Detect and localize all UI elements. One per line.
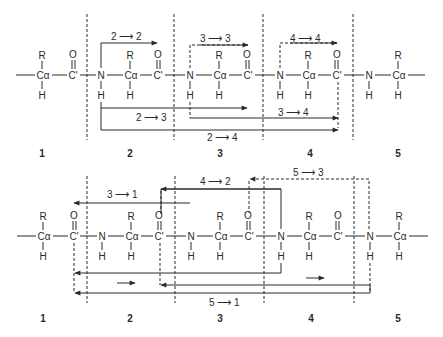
atom-n: N xyxy=(277,231,284,242)
atom-r: R xyxy=(394,50,401,61)
atom-calpha: Cα xyxy=(303,231,316,242)
atom-n: N xyxy=(186,70,193,81)
atom-r: R xyxy=(395,211,402,222)
arrow-label-5-1: 5 ⟶ 1 xyxy=(209,297,240,308)
atom-h: H xyxy=(365,90,372,101)
atom-o: O xyxy=(244,210,252,221)
atom-carbonyl-c: C' xyxy=(243,70,252,81)
arrow-label-5-3: 5 ⟶ 3 xyxy=(293,167,324,178)
atom-carbonyl-c: C' xyxy=(244,231,253,242)
atom-r: R xyxy=(304,50,311,61)
atom-carbonyl-c: C' xyxy=(153,70,162,81)
atom-carbonyl-c: C' xyxy=(154,231,163,242)
arrow-label-3-3: 3 ⟶ 3 xyxy=(200,33,231,44)
atom-carbonyl-c: C' xyxy=(68,70,77,81)
atom-r: R xyxy=(39,211,46,222)
atom-h: H xyxy=(126,90,133,101)
arrow-label-2-4: 2 ⟶ 4 xyxy=(207,132,238,143)
atom-n: N xyxy=(187,231,194,242)
residue-number: 1 xyxy=(39,148,45,159)
atom-o: O xyxy=(70,210,78,221)
atom-h: H xyxy=(305,251,312,262)
atom-calpha: Cα xyxy=(124,70,137,81)
atom-h: H xyxy=(38,90,45,101)
atom-calpha: Cα xyxy=(392,70,405,81)
atom-r: R xyxy=(305,211,312,222)
residue-number: 2 xyxy=(127,148,133,159)
arrow-label-3-4: 3 ⟶ 4 xyxy=(278,107,309,118)
arrow-label-4-2: 4 ⟶ 2 xyxy=(200,176,231,187)
atom-h: H xyxy=(97,90,104,101)
atom-o: O xyxy=(333,49,341,60)
atom-carbonyl-c: C' xyxy=(69,231,78,242)
arrow-labels-top: 2 ⟶ 2 3 ⟶ 3 4 ⟶ 4 2 ⟶ 3 3 ⟶ 4 2 ⟶ 4 xyxy=(111,31,321,143)
atom-n: N xyxy=(366,231,373,242)
residue-number: 2 xyxy=(127,313,133,324)
bottom-panel: Cα C' N Cα C' N Cα C' N Cα C' N Cα R R R… xyxy=(17,167,428,324)
residue-numbers-bottom: 1 2 3 4 5 xyxy=(40,313,401,324)
residue-number: 3 xyxy=(217,313,223,324)
atom-r: R xyxy=(216,211,223,222)
atom-calpha: Cα xyxy=(214,231,227,242)
residue-numbers-top: 1 2 3 4 5 xyxy=(39,148,401,159)
arrow-label-3-1: 3 ⟶ 1 xyxy=(107,189,138,200)
atom-h: H xyxy=(127,251,134,262)
atom-o: O xyxy=(243,49,251,60)
atom-h: H xyxy=(98,251,105,262)
atom-o: O xyxy=(154,49,162,60)
residue-number: 1 xyxy=(40,313,46,324)
atom-h: H xyxy=(187,251,194,262)
atom-h: H xyxy=(186,90,193,101)
atom-o: O xyxy=(155,210,163,221)
atom-calpha: Cα xyxy=(302,70,315,81)
residue-number: 5 xyxy=(395,148,401,159)
atom-calpha: Cα xyxy=(213,70,226,81)
arrow-label-2-3: 2 ⟶ 3 xyxy=(136,112,167,123)
peptide-hbond-diagram: Cα C' N Cα C' N Cα C' N Cα C' N Cα R R R… xyxy=(0,0,443,337)
atom-o: O xyxy=(69,49,77,60)
arrow-label-2-2: 2 ⟶ 2 xyxy=(111,31,142,42)
atom-carbonyl-c: C' xyxy=(333,231,342,242)
atom-h: H xyxy=(277,251,284,262)
residue-number: 3 xyxy=(217,148,223,159)
atom-h: H xyxy=(216,251,223,262)
atom-r: R xyxy=(126,50,133,61)
atom-h: H xyxy=(366,251,373,262)
atom-h: H xyxy=(39,251,46,262)
residue-number: 4 xyxy=(308,313,314,324)
top-panel: Cα C' N Cα C' N Cα C' N Cα C' N Cα R R R… xyxy=(16,14,425,159)
atom-r: R xyxy=(38,50,45,61)
atom-calpha: Cα xyxy=(37,231,50,242)
atom-calpha: Cα xyxy=(393,231,406,242)
atom-n: N xyxy=(276,70,283,81)
atom-calpha: Cα xyxy=(36,70,49,81)
arrow-label-4-4: 4 ⟶ 4 xyxy=(290,33,321,44)
atom-o: O xyxy=(334,210,342,221)
atom-n: N xyxy=(365,70,372,81)
atom-n: N xyxy=(97,70,104,81)
atom-n: N xyxy=(98,231,105,242)
atom-calpha: Cα xyxy=(125,231,138,242)
atom-h: H xyxy=(394,90,401,101)
residue-number: 5 xyxy=(395,313,401,324)
atom-r: R xyxy=(127,211,134,222)
atom-h: H xyxy=(395,251,402,262)
atom-h: H xyxy=(215,90,222,101)
atom-carbonyl-c: C' xyxy=(332,70,341,81)
atom-h: H xyxy=(276,90,283,101)
atom-h: H xyxy=(304,90,311,101)
atom-r: R xyxy=(215,50,222,61)
residue-number: 4 xyxy=(307,148,313,159)
